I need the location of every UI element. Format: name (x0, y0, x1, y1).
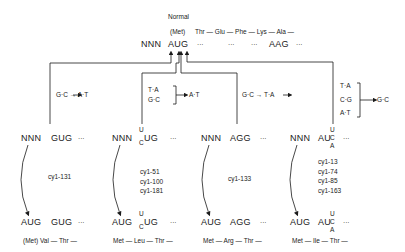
mutant-3-prefix: NNN (201, 134, 221, 143)
line-to-G (187, 53, 333, 124)
revertant-1-codon: GUG (51, 218, 72, 227)
allele-list-3: cy1-133 (228, 174, 251, 184)
ellipsis: ··· (170, 136, 177, 143)
ellipsis: ··· (78, 136, 85, 143)
ellipsis: ··· (260, 136, 267, 143)
mutation-4-from-b: C·G (340, 96, 352, 105)
ellipsis: ··· (78, 220, 85, 227)
revertant-1-start: AUG (21, 218, 41, 227)
ellipsis: ··· (260, 220, 267, 227)
revertant-4-start: AUG (290, 218, 310, 227)
normal-prefix: NNN (141, 40, 161, 49)
revertant-3-codon: AGG (230, 218, 251, 227)
normal-label: Normal (168, 14, 189, 21)
normal-protein-sequence: Thr — Glu — Phe — Lys — Ala — (195, 29, 294, 36)
mutation-2-from-b: G·C (148, 96, 160, 105)
mutation-4-from-a: T·A (340, 82, 350, 91)
mutation-1: G·C → A·T (56, 91, 88, 100)
connector-lines (0, 0, 405, 252)
ellipsis: ··· (343, 136, 350, 143)
ellipsis: ··· (296, 42, 303, 49)
protein-2: Met — Leu — Thr — (113, 238, 173, 245)
mutant-3-codon: AGG (230, 134, 251, 143)
mutation-2-to: A·T (189, 91, 199, 100)
revertant-3-start: AUG (201, 218, 221, 227)
mutant-1-prefix: NNN (21, 134, 41, 143)
mutation-4-from-c: A·T (340, 109, 350, 118)
protein-1: (Met) Val — Thr — (23, 238, 77, 245)
ellipsis: ··· (251, 42, 258, 49)
ellipsis: ··· (343, 220, 350, 227)
revertant-2-start: AUG (112, 218, 132, 227)
mutant-2-prefix: NNN (112, 134, 132, 143)
mutation-4-to: G·C (377, 96, 389, 105)
mutant-4-prefix: NNN (290, 134, 310, 143)
normal-start-codon: AUG (168, 40, 188, 49)
ellipsis: ··· (197, 42, 204, 49)
allele-list-4: cy1-13 cy1-74 cy1-85 cy1-163 (318, 157, 341, 195)
mutation-2-from-a: T·A (148, 86, 158, 95)
normal-start-amino-acid: (Met) (170, 29, 185, 36)
allele-list-2: cy1-51 cy1-100 cy1-181 (140, 167, 163, 196)
protein-3: Met — Arg — Thr — (203, 238, 262, 245)
allele-list-1: cy1-131 (48, 172, 71, 182)
normal-lys-codon: AAG (269, 40, 289, 49)
ellipsis: ··· (228, 42, 235, 49)
protein-4: Met — Ile — Thr — (292, 238, 348, 245)
mutant-1-codon: GUG (51, 134, 72, 143)
ellipsis: ··· (170, 220, 177, 227)
mutation-3: G·C → T·A (242, 91, 274, 100)
